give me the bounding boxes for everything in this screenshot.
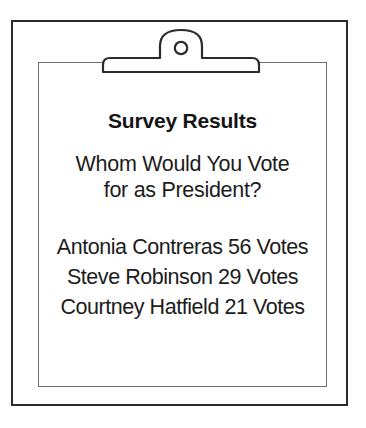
result-vote-count: 56 [228,235,251,259]
clip-hole-icon [175,42,187,54]
survey-question: Whom Would You Vote for as President? [40,151,325,203]
result-name: Courtney Hatfield [60,295,218,319]
page-title: Survey Results [40,109,325,133]
paper-content: Survey Results Whom Would You Vote for a… [40,62,325,387]
result-vote-unit: Votes [257,235,309,259]
list-item: Antonia Contreras 56 Votes [37,232,328,262]
survey-results-list: Antonia Contreras 56 Votes Steve Robinso… [37,232,328,322]
result-vote-count: 21 [224,295,247,319]
question-line-1: Whom Would You Vote [40,151,325,177]
result-name: Antonia Contreras [57,235,223,259]
result-vote-count: 29 [218,265,241,289]
result-vote-unit: Votes [253,295,305,319]
question-line-2: for as President? [40,177,325,203]
list-item: Steve Robinson 29 Votes [37,262,328,292]
list-item: Courtney Hatfield 21 Votes [37,292,328,322]
result-name: Steve Robinson [67,265,213,289]
result-vote-unit: Votes [247,265,299,289]
clipboard-illustration: Survey Results Whom Would You Vote for a… [0,0,366,428]
